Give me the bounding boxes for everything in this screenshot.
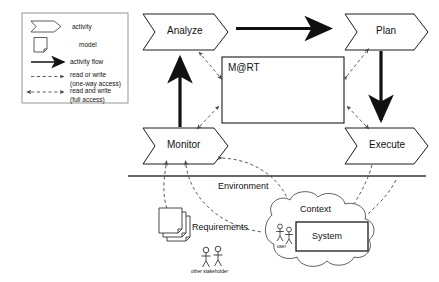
access-analyze-mart (199, 52, 219, 76)
access-context-right-edge (368, 180, 396, 214)
other-stakeholder-figures (202, 246, 223, 267)
legend-label-read-or-write: read or write (70, 72, 106, 79)
other-stakeholder-label: other stakeholder (191, 270, 228, 275)
system-label: System (312, 232, 342, 241)
access-monitor-mart (200, 106, 219, 126)
legend-label-model: model (79, 42, 97, 49)
requirements-shape[interactable] (159, 208, 190, 241)
activity-label-plan: Plan (376, 26, 396, 36)
diagram-root: activity model activity flow read or wri… (0, 0, 439, 282)
access-plan-mart (347, 52, 366, 76)
legend-label-activity-flow: activity flow (70, 59, 103, 66)
activity-label-analyze: Analyze (167, 26, 203, 36)
user-label: user (277, 245, 286, 250)
environment-label: Environment (218, 182, 269, 191)
model-box-label: M@RT (228, 63, 260, 73)
legend-sublabel-full-access: (full access) (70, 97, 105, 104)
context-label: Context (300, 205, 331, 214)
legend-activity-icon (31, 21, 61, 32)
activity-label-execute: Execute (369, 140, 405, 150)
requirements-label: Requirements (192, 223, 248, 232)
access-execute-mart (347, 106, 366, 126)
legend-model-icon (34, 38, 47, 53)
legend-label-read-and-write: read and write (70, 88, 111, 95)
legend-label-activity: activity (72, 24, 92, 31)
activity-label-monitor: Monitor (167, 140, 200, 150)
